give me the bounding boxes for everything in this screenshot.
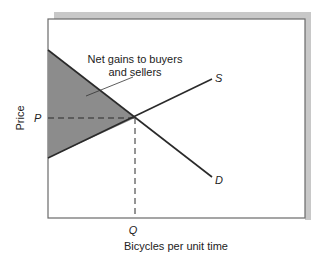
supply-label: S <box>215 72 223 84</box>
quantity-tick-label: Q <box>129 224 138 236</box>
demand-label: D <box>215 174 223 186</box>
annotation-line-2: and sellers <box>108 66 162 78</box>
frame-shadow-top <box>54 12 311 19</box>
y-axis-label: Price <box>14 105 26 130</box>
frame-shadow-right <box>305 12 311 220</box>
price-tick-label: P <box>34 112 42 124</box>
x-axis-label: Bicycles per unit time <box>124 240 228 252</box>
supply-demand-diagram: Net gains to buyers and sellers S D P Q … <box>0 0 326 257</box>
annotation-line-1: Net gains to buyers <box>88 53 183 65</box>
